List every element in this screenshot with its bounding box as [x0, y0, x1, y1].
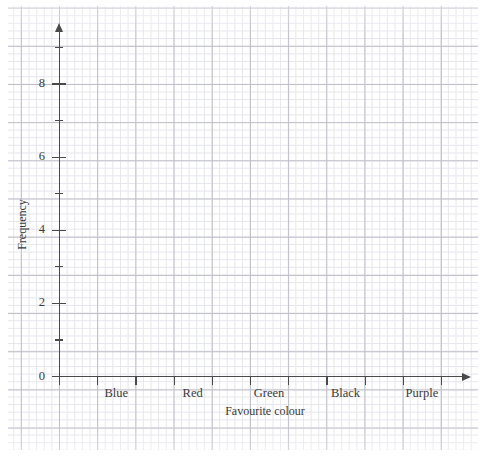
- x-category-red: Red: [153, 386, 233, 401]
- y-tick-3: [55, 266, 63, 267]
- x-tick-8: [365, 377, 366, 385]
- x-tick-7: [326, 377, 327, 385]
- y-tick-label-0: 0: [11, 370, 45, 383]
- y-tick-2: [52, 303, 66, 304]
- y-tick-4: [52, 230, 66, 231]
- y-tick-8: [52, 83, 66, 84]
- y-tick-7: [55, 120, 63, 121]
- y-tick-1: [55, 339, 63, 340]
- x-tick-2: [135, 377, 136, 385]
- x-axis-title: Favourite colour: [205, 404, 325, 419]
- y-axis-title: Frequency: [15, 187, 30, 263]
- chart-canvas: 02468 BlueRedGreenBlackPurple Frequency …: [0, 0, 486, 458]
- x-tick-3: [174, 377, 175, 385]
- x-category-purple: Purple: [382, 386, 462, 401]
- y-tick-5: [55, 193, 63, 194]
- y-tick-label-8: 8: [11, 77, 45, 90]
- y-tick-9: [55, 47, 63, 48]
- x-tick-1: [97, 377, 98, 385]
- x-category-green: Green: [229, 386, 309, 401]
- y-tick-label-2: 2: [11, 296, 45, 309]
- x-tick-4: [212, 377, 213, 385]
- x-category-blue: Blue: [76, 386, 156, 401]
- plot-area: [59, 30, 465, 377]
- x-tick-10: [441, 377, 442, 385]
- x-tick-6: [288, 377, 289, 385]
- y-tick-6: [52, 157, 66, 158]
- x-category-black: Black: [306, 386, 386, 401]
- y-tick-label-6: 6: [11, 150, 45, 163]
- x-tick-5: [250, 377, 251, 385]
- x-tick-9: [403, 377, 404, 385]
- x-tick-0: [59, 377, 60, 385]
